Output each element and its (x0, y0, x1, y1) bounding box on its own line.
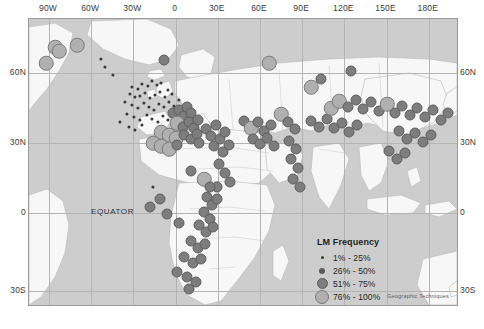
legend-item-label: 26% - 50% (333, 266, 375, 276)
legend-circle-icon (321, 256, 324, 259)
legend-item-label: 76% - 100% (333, 292, 380, 302)
legend-circle-icon (315, 290, 329, 304)
data-point (174, 218, 185, 229)
data-point (352, 120, 363, 131)
lon-tick-label: 0 (172, 3, 177, 13)
lon-tick-label: 30E (209, 3, 225, 13)
credit-attribution: Geographic Techniques (387, 293, 449, 299)
data-point (159, 55, 170, 66)
legend-symbol (311, 278, 333, 289)
data-point (295, 182, 306, 193)
lon-tick-label: 120E (333, 3, 354, 13)
data-point (200, 239, 211, 250)
data-point (162, 209, 173, 220)
data-point (225, 177, 236, 188)
legend-symbol (311, 268, 333, 274)
legend-item: 26% - 50% (311, 264, 415, 277)
data-point (208, 222, 219, 233)
lon-tick-label: 60W (81, 3, 99, 13)
lon-tick-label: 60E (251, 3, 267, 13)
graticule-meridian (133, 19, 134, 305)
lon-tick-label: 30W (123, 3, 141, 13)
data-point (428, 105, 439, 116)
data-point (262, 56, 277, 71)
data-point (224, 140, 235, 151)
legend-item: 51% - 75% (311, 277, 415, 290)
data-point (269, 141, 280, 152)
lon-tick-label: 150E (375, 3, 396, 13)
data-point (290, 124, 301, 135)
data-point (316, 74, 327, 85)
legend-circle-icon (319, 268, 325, 274)
data-point (443, 108, 454, 119)
data-point (145, 202, 156, 213)
legend-item: 1% - 25% (311, 251, 415, 264)
lat-tick-label-right: 0 (460, 207, 465, 217)
data-point (52, 44, 67, 59)
lon-tick-label: 90W (39, 3, 57, 13)
legend-item-label: 51% - 75% (333, 279, 375, 289)
lat-tick-label-left: 0 (16, 207, 26, 217)
map-canvas[interactable]: EQUATOR LM Frequency 1% - 25%26% - 50%51… (28, 18, 458, 306)
graticule-parallel (29, 143, 457, 144)
legend-symbol (311, 290, 333, 304)
data-point (70, 38, 85, 53)
data-point (293, 163, 304, 174)
data-point (266, 120, 277, 131)
lat-tick-label-right: 60N (460, 67, 476, 77)
data-point (196, 254, 207, 265)
data-point (346, 66, 357, 77)
data-point (400, 148, 411, 159)
lat-tick-label-right: 30S (460, 285, 476, 295)
graticule-parallel (29, 73, 457, 74)
equator-label: EQUATOR (91, 207, 134, 216)
legend-circle-icon (317, 278, 328, 289)
data-point (39, 56, 54, 71)
data-point (426, 130, 437, 141)
data-point (155, 194, 166, 205)
data-point (220, 127, 231, 138)
graticule-meridian (91, 19, 92, 305)
data-point (194, 138, 205, 149)
graticule-meridian (176, 19, 177, 305)
graticule-meridian (429, 19, 430, 305)
lat-tick-label-left: 30N (6, 137, 26, 147)
data-point (212, 194, 223, 205)
lat-tick-label-left: 30S (6, 285, 26, 295)
data-point (186, 166, 197, 177)
data-point (172, 140, 183, 151)
legend-title: LM Frequency (317, 237, 415, 247)
lat-tick-label-left: 60N (6, 67, 26, 77)
lat-tick-label-right: 30N (460, 137, 476, 147)
lon-tick-label: 90E (293, 3, 309, 13)
legend-symbol (311, 256, 333, 259)
legend-item-label: 1% - 25% (333, 253, 371, 263)
data-point (184, 284, 195, 295)
graticule-meridian (302, 19, 303, 305)
world-map-figure: 90W60W30W030E60E90E120E150E180E 60N30N03… (0, 0, 484, 329)
lon-tick-label: 180E (417, 3, 438, 13)
